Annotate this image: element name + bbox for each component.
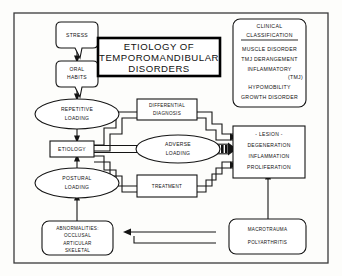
etiology-flowchart-figure: STRESS ORAL HABITS REPETITIVE LOADING ET… [0, 0, 342, 276]
node-macrotrauma-polyarthritis: MACROTRAUMA POLYARTHRITIS [229, 219, 306, 254]
connector-treatment-to-lesion-upper [197, 162, 233, 186]
clinical-classification-inflammatory-qualifier: (TMJ) [288, 74, 303, 80]
node-lesion-line-1: - LESION - [255, 131, 282, 137]
node-abnormalities-line-2: OCCLUSAL [64, 233, 91, 238]
node-oral-habits: ORAL HABITS [56, 61, 98, 97]
node-repetitive-loading-line-2: LOADING [65, 115, 90, 121]
node-lesion-line-4: PROLIFERATION [247, 164, 291, 170]
node-polyarthritis-label: POLYARTHRITIS [248, 240, 287, 245]
flowchart-canvas: STRESS ORAL HABITS REPETITIVE LOADING ET… [0, 0, 342, 276]
clinical-classification-item-3: INFLAMMATORY [247, 66, 291, 72]
clinical-classification-item-4: HYPOMOBILITY [248, 84, 291, 90]
node-macrotrauma-label: MACROTRAUMA [248, 227, 288, 232]
node-adverse-loading-line-1: ADVERSE [165, 141, 191, 147]
clinical-classification-panel: CLINICAL CLASSIFICATION MUSCLE DISORDER … [233, 19, 306, 107]
node-lesion-line-2: DEGENERATION [247, 142, 290, 148]
node-stress-label: STRESS [66, 32, 88, 38]
node-repetitive-loading: REPETITIVE LOADING [35, 99, 119, 129]
title-line-1: ETIOLOGY OF [124, 41, 194, 52]
clinical-classification-item-2: TMJ DERANGEMENT [241, 56, 298, 62]
connector-macrotrauma-to-abnormalities-lower [134, 236, 216, 243]
node-abnormalities-line-1: ABNORMALITIES: [56, 226, 98, 231]
node-abnormalities: ABNORMALITIES: OCCLUSAL ARTICULAR SKELET… [42, 221, 113, 255]
node-treatment-label: TREATMENT [152, 184, 182, 189]
node-stress: STRESS [56, 22, 98, 58]
node-repetitive-loading-line-1: REPETITIVE [61, 106, 94, 112]
hatch-bar-4 [221, 145, 224, 153]
hatch-bar-5 [225, 145, 228, 153]
node-abnormalities-line-4: SKELETAL [65, 248, 90, 253]
node-etiology: ETIOLOGY [50, 141, 94, 157]
clinical-classification-item-1: MUSCLE DISORDER [242, 46, 297, 52]
node-postural-loading-line-2: LOADING [65, 184, 90, 190]
node-adverse-loading-line-2: LOADING [166, 150, 191, 156]
node-treatment: TREATMENT [137, 175, 197, 197]
node-abnormalities-line-3: ARTICULAR [63, 241, 92, 246]
connector-treatment-to-lesion-lower [197, 168, 233, 192]
node-oral-habits-line-2: HABITS [67, 74, 87, 80]
node-differential-diagnosis-line-1: DIFFERENTIAL [149, 103, 185, 108]
node-differential-diagnosis-line-2: DIAGNOSIS [153, 111, 181, 116]
title-line-3: DISORDERS [128, 63, 190, 74]
arrowhead-abnormalities [123, 229, 131, 236]
clinical-classification-heading-line-1: CLINICAL [257, 23, 283, 29]
title-line-2: TEMPOROMANDIBULAR [99, 52, 219, 63]
node-lesion-line-3: INFLAMMATION [248, 153, 289, 159]
node-postural-loading-line-1: POSTURAL [62, 175, 91, 181]
clinical-classification-heading-line-2: CLASSIFICATION [246, 32, 292, 38]
node-adverse-loading: ADVERSE LOADING [136, 135, 220, 163]
node-etiology-label: ETIOLOGY [58, 146, 86, 152]
connector-differential-to-lesion-upper [197, 112, 233, 134]
node-differential-diagnosis: DIFFERENTIAL DIAGNOSIS [137, 99, 197, 120]
node-lesion: - LESION - DEGENERATION INFLAMMATION PRO… [233, 126, 305, 178]
connector-differential-to-lesion-lower [197, 118, 233, 140]
clinical-classification-item-5: GROWTH DISORDER [241, 94, 298, 100]
node-oral-habits-line-1: ORAL [70, 66, 85, 72]
node-postural-loading: POSTURAL LOADING [35, 168, 119, 198]
title-box: ETIOLOGY OF TEMPOROMANDIBULAR DISORDERS [98, 38, 220, 76]
